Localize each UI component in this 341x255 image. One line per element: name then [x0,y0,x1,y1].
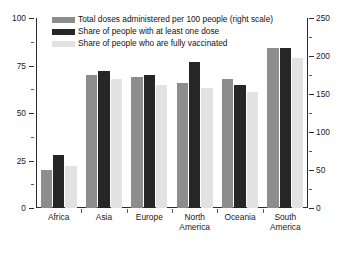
right-axis-tick-label: 250 [316,14,330,22]
category-label: Asia [81,212,126,222]
category-label: Oceania [217,212,262,222]
legend-item: Share of people with at least one dose [52,26,273,37]
left-axis-tick-mark [29,66,34,67]
left-axis-tick-label: 25 [4,156,26,164]
right-axis-tick-label: 100 [316,128,330,136]
left-axis-minor-tick [31,89,34,90]
bar [98,71,110,208]
legend-swatch-icon [52,29,75,35]
category-label-line: Europe [127,212,172,222]
bar [156,85,168,209]
legend-swatch-icon [52,41,75,47]
right-axis-minor-tick [309,37,312,38]
right-axis-tick-label: 150 [316,90,330,98]
left-axis-tick-label: 0 [4,204,26,212]
vaccination-bar-chart: 0255075100 050100150200250 AfricaAsiaEur… [0,0,341,255]
right-axis-minor-tick [309,189,312,190]
right-axis-minor-tick [309,151,312,152]
bar [177,83,189,208]
right-axis-tick-label: 0 [316,204,321,212]
bar [201,88,213,208]
bar [131,77,143,208]
right-axis-tick-label: 50 [316,166,325,174]
left-axis-minor-tick [31,137,34,138]
category-label: Europe [127,212,172,222]
bar [144,75,156,208]
right-axis-tick-mark [309,208,314,209]
left-axis-tick-mark [29,113,34,114]
bar [65,166,77,208]
left-axis-tick-mark [29,208,34,209]
bar [267,48,279,208]
right-axis-minor-tick [309,113,312,114]
category-label: NorthAmerica [172,212,217,232]
bar [234,85,246,209]
right-axis-tick-mark [309,132,314,133]
category-label-line: America [263,222,308,232]
right-axis-tick-mark [309,170,314,171]
category-label-line: Africa [36,212,81,222]
category-label-line: North [172,212,217,222]
bar [53,155,65,208]
chart-legend: Total doses administered per 100 people … [52,14,273,49]
legend-item: Total doses administered per 100 people … [52,14,273,25]
bar [111,79,123,208]
left-axis-tick-label: 50 [4,109,26,117]
right-axis-tick-mark [309,56,314,57]
left-axis-tick-mark [29,18,34,19]
legend-swatch-icon [52,17,75,23]
bar [41,170,53,208]
bar [292,58,304,208]
right-axis-tick-mark [309,18,314,19]
right-axis-tick-mark [309,94,314,95]
bar [189,62,201,208]
right-axis-tick-label: 200 [316,52,330,60]
bar [247,92,259,208]
legend-item: Share of people who are fully vaccinated [52,38,273,49]
category-label: Africa [36,212,81,222]
left-axis-minor-tick [31,184,34,185]
left-axis-tick-mark [29,161,34,162]
category-label-line: Asia [81,212,126,222]
bar [86,75,98,208]
legend-label: Share of people with at least one dose [78,27,219,36]
left-axis-tick-label: 75 [4,61,26,69]
left-axis-minor-tick [31,42,34,43]
legend-label: Share of people who are fully vaccinated [78,39,227,48]
category-label-line: South [263,212,308,222]
bar [280,48,292,208]
bar [222,79,234,208]
legend-label: Total doses administered per 100 people … [78,15,273,24]
category-label: SouthAmerica [263,212,308,232]
left-axis-tick-label: 100 [4,14,26,22]
category-label-line: Oceania [217,212,262,222]
right-axis-minor-tick [309,75,312,76]
category-label-line: America [172,222,217,232]
